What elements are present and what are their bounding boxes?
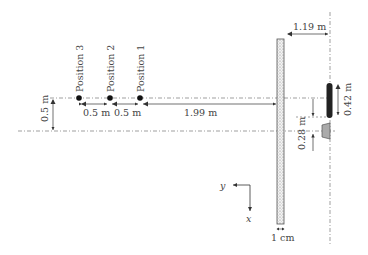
spacing-2-1-label: 0.5 m (114, 107, 141, 118)
position-2-label: Position 2 (105, 45, 116, 92)
position-3-label: Position 3 (74, 45, 85, 92)
bar-length-label: 0.42 m (342, 83, 353, 116)
y-axis-label: y (219, 180, 226, 191)
position-3-dot (76, 95, 82, 101)
wall-thickness-label: 1 cm (271, 232, 294, 243)
source-speaker (322, 123, 330, 139)
position-2-dot (107, 95, 113, 101)
position-1-label: Position 1 (135, 45, 146, 92)
spacing-3-2-label: 0.5 m (83, 107, 110, 118)
wall-to-line-label: 1.19 m (293, 21, 326, 32)
setup-diagram: Position 3 Position 2 Position 1 0.5 m 0… (0, 0, 368, 255)
source-offset-label: 0.28 m (296, 117, 307, 150)
pos1-to-wall-label: 1.99 m (184, 107, 217, 118)
position-1-dot (137, 95, 143, 101)
x-axis-label: x (246, 213, 252, 224)
wall (277, 39, 284, 224)
receiver-bar (327, 83, 333, 118)
lateral-offset-label: 0.5 m (39, 95, 50, 122)
